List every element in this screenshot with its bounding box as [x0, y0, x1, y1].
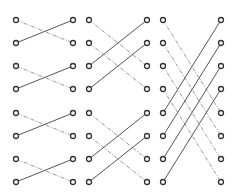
node-stage-1-in-row1 [14, 41, 19, 46]
node-stage-1-in-row2 [14, 64, 19, 69]
node-stage-1-in-row3 [14, 87, 19, 92]
node-stage-1-in-row6 [14, 157, 19, 162]
node-stage-2-in-row4 [87, 111, 92, 116]
butterfly-diagram [0, 0, 239, 196]
node-stage-3-out-row4 [219, 111, 224, 116]
node-stage-3-in-row5 [161, 134, 166, 139]
node-stage-2-out-row2 [145, 64, 150, 69]
node-stage-3-in-row2 [161, 64, 166, 69]
node-stage-2-in-row7 [87, 180, 92, 185]
node-stage-3-out-row5 [219, 134, 224, 139]
node-stage-2-in-row5 [87, 134, 92, 139]
node-stage-1-out-row0 [71, 18, 76, 23]
node-stage-3-in-row4 [161, 111, 166, 116]
node-stage-2-out-row1 [145, 41, 150, 46]
node-stage-3-out-row1 [219, 41, 224, 46]
node-stage-2-in-row1 [87, 41, 92, 46]
node-stage-1-out-row3 [71, 87, 76, 92]
node-stage-3-in-row7 [161, 180, 166, 185]
node-stage-2-in-row6 [87, 157, 92, 162]
node-stage-1-out-row6 [71, 157, 76, 162]
node-stage-3-out-row2 [219, 64, 224, 69]
node-stage-3-out-row3 [219, 87, 224, 92]
node-stage-3-in-row1 [161, 41, 166, 46]
node-stage-2-out-row6 [145, 157, 150, 162]
node-stage-2-in-row3 [87, 87, 92, 92]
node-stage-1-out-row4 [71, 111, 76, 116]
node-stage-1-out-row1 [71, 41, 76, 46]
edges-layer [16, 20, 221, 182]
node-stage-2-out-row3 [145, 87, 150, 92]
node-stage-2-in-row2 [87, 64, 92, 69]
node-stage-2-out-row4 [145, 111, 150, 116]
node-stage-2-in-row0 [87, 18, 92, 23]
node-stage-1-out-row2 [71, 64, 76, 69]
node-stage-1-out-row5 [71, 134, 76, 139]
node-stage-3-in-row3 [161, 87, 166, 92]
node-stage-2-out-row0 [145, 18, 150, 23]
node-stage-3-out-row7 [219, 180, 224, 185]
node-stage-3-in-row6 [161, 157, 166, 162]
node-stage-1-in-row7 [14, 180, 19, 185]
node-stage-1-in-row0 [14, 18, 19, 23]
node-stage-1-in-row4 [14, 111, 19, 116]
node-stage-1-in-row5 [14, 134, 19, 139]
node-stage-2-out-row7 [145, 180, 150, 185]
node-stage-1-out-row7 [71, 180, 76, 185]
node-stage-3-in-row0 [161, 18, 166, 23]
node-stage-3-out-row6 [219, 157, 224, 162]
node-stage-3-out-row0 [219, 18, 224, 23]
node-stage-2-out-row5 [145, 134, 150, 139]
